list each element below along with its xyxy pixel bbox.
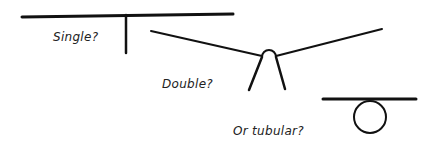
tubular-circle <box>354 101 386 133</box>
diagram-canvas <box>0 0 432 147</box>
tubular-label: Or tubular? <box>233 124 304 138</box>
double-right-leg <box>276 57 285 89</box>
single-label: Single? <box>53 30 98 44</box>
double-left-leg <box>249 57 262 90</box>
double-loop <box>262 50 276 57</box>
tubular-shape <box>323 99 416 133</box>
double-label: Double? <box>162 77 213 91</box>
double-right-arm <box>276 29 382 56</box>
double-left-arm <box>151 31 262 56</box>
single-top-bar <box>22 14 233 17</box>
